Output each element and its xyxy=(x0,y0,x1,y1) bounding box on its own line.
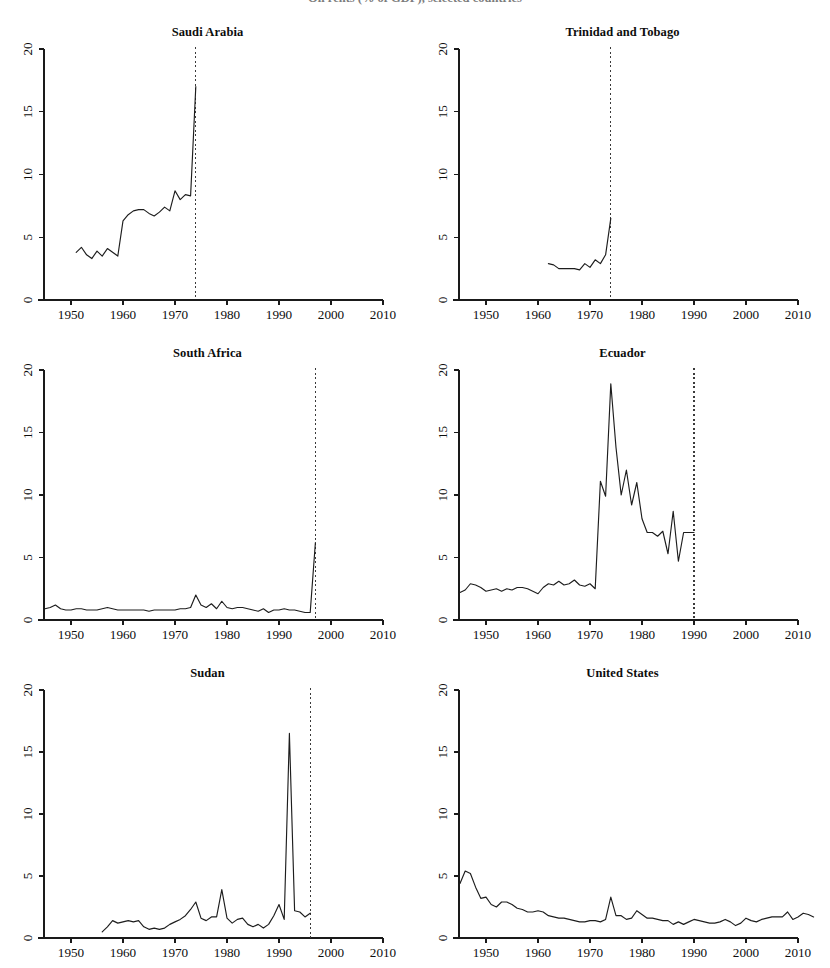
ytick-label: 0 xyxy=(435,296,450,303)
xtick-label: 1950 xyxy=(473,627,500,642)
xtick-label: 1960 xyxy=(110,945,137,960)
plot-south-africa: 051015201950196019701980199020002010 xyxy=(0,330,415,650)
xtick-label: 1980 xyxy=(214,307,241,322)
xtick-label: 1980 xyxy=(214,945,241,960)
xtick-label: 2000 xyxy=(733,627,760,642)
xtick-label: 2010 xyxy=(370,945,397,960)
plot-united-states: 051015201950196019701980199020002010 xyxy=(415,650,830,968)
xtick-label: 1970 xyxy=(577,627,604,642)
xtick-label: 1950 xyxy=(58,945,85,960)
xtick-label: 2010 xyxy=(785,307,812,322)
series-line xyxy=(460,384,694,594)
ytick-label: 5 xyxy=(20,872,35,879)
xtick-label: 1980 xyxy=(629,945,656,960)
plot-saudi-arabia: 051015201950196019701980199020002010 xyxy=(0,9,415,330)
ytick-label: 20 xyxy=(435,683,450,697)
ytick-label: 5 xyxy=(20,554,35,561)
ytick-label: 0 xyxy=(20,296,35,303)
xtick-label: 1970 xyxy=(162,307,189,322)
xtick-label: 1980 xyxy=(214,627,241,642)
series-line xyxy=(102,733,310,931)
ytick-label: 10 xyxy=(20,488,35,502)
ytick-label: 15 xyxy=(435,105,450,119)
panel-south-africa: South Africa 051015201950196019701980199… xyxy=(0,330,415,650)
xtick-label: 2000 xyxy=(733,945,760,960)
ytick-label: 20 xyxy=(20,363,35,377)
series-line xyxy=(45,543,315,613)
xtick-label: 2000 xyxy=(733,307,760,322)
xtick-label: 1950 xyxy=(58,627,85,642)
ytick-label: 10 xyxy=(20,168,35,182)
series-line xyxy=(460,871,814,926)
xtick-label: 1990 xyxy=(266,945,293,960)
ytick-label: 10 xyxy=(435,807,450,821)
xtick-label: 1960 xyxy=(110,307,137,322)
xtick-label: 1970 xyxy=(162,627,189,642)
xtick-label: 1950 xyxy=(58,307,85,322)
xtick-label: 2000 xyxy=(318,945,345,960)
ytick-label: 5 xyxy=(435,234,450,241)
xtick-label: 2010 xyxy=(785,627,812,642)
xtick-label: 1990 xyxy=(681,307,708,322)
figure-suptitle-clipped: Oil rents (% of GDP), selected countries xyxy=(0,0,830,9)
ytick-label: 20 xyxy=(20,683,35,697)
ytick-label: 15 xyxy=(435,426,450,440)
panel-saudi-arabia: Saudi Arabia 051015201950196019701980199… xyxy=(0,9,415,330)
plot-ecuador: 051015201950196019701980199020002010 xyxy=(415,330,830,650)
figure-suptitle-text: Oil rents (% of GDP), selected countries xyxy=(0,0,830,6)
xtick-label: 1980 xyxy=(629,627,656,642)
xtick-label: 2000 xyxy=(318,627,345,642)
ytick-label: 0 xyxy=(20,934,35,941)
ytick-label: 5 xyxy=(435,872,450,879)
xtick-label: 1990 xyxy=(681,945,708,960)
ytick-label: 15 xyxy=(20,426,35,440)
xtick-label: 1970 xyxy=(577,307,604,322)
series-line xyxy=(76,87,196,259)
ytick-label: 0 xyxy=(435,934,450,941)
panel-united-states: United States 05101520195019601970198019… xyxy=(415,650,830,968)
ytick-label: 20 xyxy=(435,363,450,377)
xtick-label: 2010 xyxy=(370,307,397,322)
xtick-label: 1970 xyxy=(162,945,189,960)
xtick-label: 1970 xyxy=(577,945,604,960)
xtick-label: 1960 xyxy=(525,945,552,960)
xtick-label: 1990 xyxy=(681,627,708,642)
xtick-label: 2000 xyxy=(318,307,345,322)
plot-sudan: 051015201950196019701980199020002010 xyxy=(0,650,415,968)
xtick-label: 2010 xyxy=(785,945,812,960)
ytick-label: 10 xyxy=(435,168,450,182)
panel-ecuador: Ecuador 05101520195019601970198019902000… xyxy=(415,330,830,650)
plot-trinidad-and-tobago: 051015201950196019701980199020002010 xyxy=(415,9,830,330)
xtick-label: 1980 xyxy=(629,307,656,322)
panel-sudan: Sudan 0510152019501960197019801990200020… xyxy=(0,650,415,968)
xtick-label: 1960 xyxy=(525,627,552,642)
series-line xyxy=(548,218,610,269)
ytick-label: 5 xyxy=(20,234,35,241)
xtick-label: 1950 xyxy=(473,945,500,960)
ytick-label: 0 xyxy=(20,616,35,623)
ytick-label: 0 xyxy=(435,616,450,623)
xtick-label: 1960 xyxy=(525,307,552,322)
ytick-label: 15 xyxy=(20,745,35,759)
xtick-label: 1960 xyxy=(110,627,137,642)
xtick-label: 2010 xyxy=(370,627,397,642)
ytick-label: 5 xyxy=(435,554,450,561)
panel-grid: Saudi Arabia 051015201950196019701980199… xyxy=(0,9,830,968)
xtick-label: 1990 xyxy=(266,627,293,642)
ytick-label: 15 xyxy=(20,105,35,119)
panel-trinidad-and-tobago: Trinidad and Tobago 05101520195019601970… xyxy=(415,9,830,330)
ytick-label: 10 xyxy=(435,488,450,502)
ytick-label: 20 xyxy=(435,42,450,56)
xtick-label: 1990 xyxy=(266,307,293,322)
ytick-label: 20 xyxy=(20,42,35,56)
ytick-label: 15 xyxy=(435,745,450,759)
ytick-label: 10 xyxy=(20,807,35,821)
xtick-label: 1950 xyxy=(473,307,500,322)
